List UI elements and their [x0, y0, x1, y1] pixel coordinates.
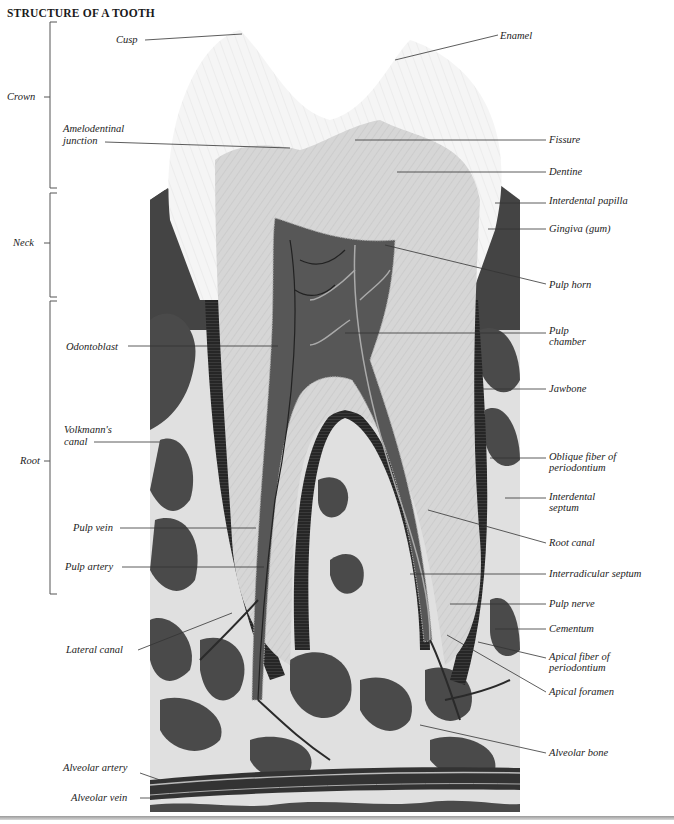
label-amelodentinal-junction-2: junction — [63, 135, 97, 146]
bottom-rule — [0, 816, 674, 820]
label-apical-fiber-1: Apical fiber of — [549, 651, 610, 662]
label-apical-foramen: Apical foramen — [549, 686, 614, 697]
label-interdental-septum-1: Interdental — [549, 491, 595, 502]
label-alveolar-artery: Alveolar artery — [63, 762, 127, 773]
label-cusp: Cusp — [116, 34, 138, 45]
label-enamel: Enamel — [500, 30, 532, 41]
region-label-crown: Crown — [7, 91, 35, 102]
label-fissure: Fissure — [549, 134, 580, 145]
label-interradicular-septum: Interradicular septum — [549, 568, 641, 579]
label-amelodentinal-junction-1: Amelodentinal — [63, 123, 124, 134]
label-odontoblast: Odontoblast — [66, 341, 118, 352]
label-dentine: Dentine — [549, 166, 582, 177]
label-pulp-horn: Pulp horn — [549, 279, 591, 290]
region-brackets — [44, 22, 57, 594]
label-pulp-vein: Pulp vein — [73, 522, 113, 533]
label-pulp-chamber-1: Pulp — [549, 325, 569, 336]
label-volkmanns-canal-2: canal — [64, 436, 87, 447]
label-root-canal: Root canal — [549, 537, 595, 548]
label-interdental-papilla: Interdental papilla — [549, 195, 628, 206]
label-pulp-artery: Pulp artery — [65, 561, 113, 572]
label-pulp-chamber-2: chamber — [549, 336, 586, 347]
label-interdental-septum-2: septum — [549, 502, 579, 513]
label-gingiva: Gingiva (gum) — [549, 223, 611, 234]
label-alveolar-bone: Alveolar bone — [549, 747, 608, 758]
region-label-root: Root — [20, 455, 40, 466]
region-label-neck: Neck — [13, 237, 34, 248]
label-volkmanns-canal-1: Volkmann's — [64, 424, 112, 435]
label-oblique-fiber-1: Oblique fiber of — [549, 451, 616, 462]
label-cementum: Cementum — [549, 623, 594, 634]
label-jawbone: Jawbone — [549, 383, 586, 394]
label-oblique-fiber-2: periodontium — [549, 462, 606, 473]
label-pulp-nerve: Pulp nerve — [549, 598, 595, 609]
label-alveolar-vein: Alveolar vein — [71, 792, 127, 803]
label-lateral-canal: Lateral canal — [66, 644, 123, 655]
label-apical-fiber-2: periodontium — [549, 662, 606, 673]
